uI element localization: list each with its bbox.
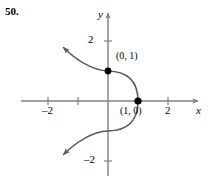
point-0-1	[105, 68, 112, 75]
x-axis-label: x	[196, 104, 201, 116]
x-tick-label-2: 2	[165, 104, 171, 116]
point-1-0	[134, 97, 141, 104]
y-tick-label--2: –2	[84, 153, 95, 165]
x-tick-label--2: –2	[42, 104, 53, 116]
point-label-1-0: (1, 0)	[120, 105, 142, 116]
y-tick-label-2: 2	[88, 33, 94, 45]
y-axis-label: y	[98, 8, 103, 20]
point-label-0-1: (0, 1)	[116, 50, 138, 61]
graph-svg	[0, 0, 209, 182]
